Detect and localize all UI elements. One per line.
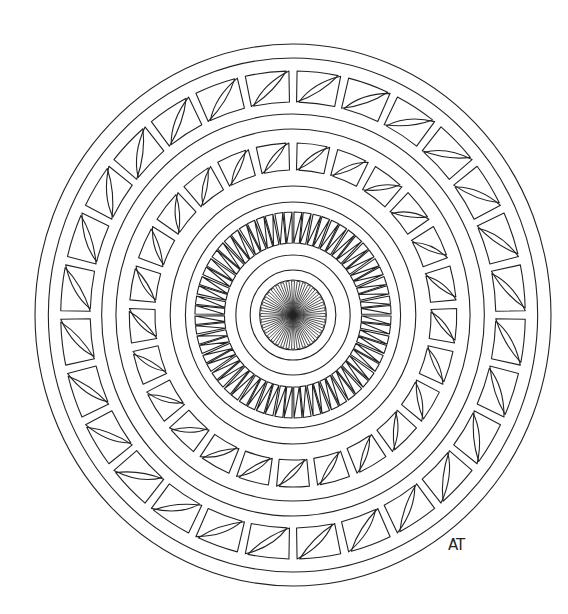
tile-triangle xyxy=(154,504,202,533)
tile-triangle xyxy=(431,309,457,341)
tile-triangle xyxy=(133,346,166,371)
tile-triangle xyxy=(422,453,449,503)
tile-triangle xyxy=(202,166,224,205)
tile-triangle xyxy=(424,151,472,180)
tile-triangle xyxy=(422,127,470,158)
tile-triangle xyxy=(106,166,132,217)
tile-triangle xyxy=(239,458,272,485)
tile-triangle xyxy=(347,436,369,473)
zigzag-tile xyxy=(197,330,227,345)
tile-triangle xyxy=(392,212,429,234)
tile-triangle xyxy=(116,472,164,503)
zigzag-tile xyxy=(359,286,389,301)
tile-triangle xyxy=(152,227,174,265)
tile-triangle xyxy=(139,229,163,267)
tile-triangle xyxy=(419,348,443,384)
zigzag-tile xyxy=(199,277,229,294)
tile-triangle xyxy=(400,484,435,532)
tile-triangle xyxy=(202,448,239,473)
tile-triangle xyxy=(175,193,196,233)
tile-triangle xyxy=(384,97,432,126)
tile-triangle xyxy=(67,216,96,264)
tile-triangle xyxy=(386,119,434,146)
tile-triangle xyxy=(402,382,423,421)
tile-triangle xyxy=(237,451,270,476)
tile-triangle xyxy=(416,380,439,419)
hub-center xyxy=(290,312,296,318)
tile-triangle xyxy=(171,428,209,452)
tile-triangle xyxy=(148,395,185,422)
zigzag-tile xyxy=(357,336,387,353)
zigzag-tile xyxy=(357,277,387,294)
spoked-hub xyxy=(261,281,326,349)
tile-triangle xyxy=(86,168,113,219)
tile-triangle xyxy=(114,129,144,180)
tile-triangle xyxy=(363,166,400,190)
tile-triangle xyxy=(442,451,472,502)
tile-triangle xyxy=(114,451,162,480)
tile-triangle xyxy=(454,166,500,203)
zigzag-tile xyxy=(199,336,229,353)
tile-triangle xyxy=(200,434,237,457)
tile-triangle xyxy=(147,380,183,403)
tile-triangle xyxy=(151,484,199,511)
tile-triangle xyxy=(473,411,500,462)
tile-triangle xyxy=(151,98,186,146)
tile-triangle xyxy=(87,427,133,464)
tile-triangle xyxy=(428,346,453,382)
tile-triangle xyxy=(342,78,388,108)
tile-triangle xyxy=(390,193,427,218)
tile-triangle xyxy=(365,185,403,207)
tile-triangle xyxy=(454,413,480,464)
tile-triangle xyxy=(232,150,256,186)
mandala-artwork xyxy=(0,0,568,614)
tile-triangle xyxy=(184,168,208,207)
tile-triangle xyxy=(299,147,330,173)
tile-triangle xyxy=(198,522,244,552)
artist-signature: AT xyxy=(448,536,464,554)
tile-triangle xyxy=(136,266,161,300)
tile-triangle xyxy=(490,366,519,414)
tile-triangle xyxy=(136,127,163,177)
